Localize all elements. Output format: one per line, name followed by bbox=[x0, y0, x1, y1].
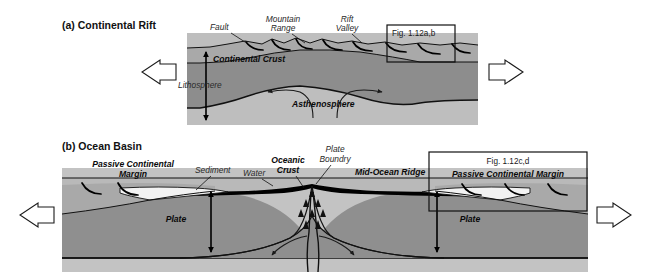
panel-a-continental-rift: (a) Continental Rift bbox=[62, 14, 523, 125]
extension-arrow-left-icon bbox=[142, 60, 176, 84]
panel-a-inset-caption: Fig. 1.12a,b bbox=[392, 29, 436, 38]
plate-boundary-label-line1: Plate bbox=[325, 144, 344, 154]
passive-margin-label-line2: Margin bbox=[119, 169, 147, 179]
plate-label-right: Plate bbox=[460, 214, 481, 224]
tectonic-diagram: (a) Continental Rift bbox=[0, 0, 650, 278]
panel-b-title: (b) Ocean Basin bbox=[62, 140, 142, 152]
oceanic-crust-label-line1: Oceanic bbox=[271, 155, 305, 165]
plate-label-left: Plate bbox=[166, 214, 187, 224]
panel-b-cross-section bbox=[62, 168, 588, 272]
continental-crust-label: Continental Crust bbox=[213, 54, 286, 64]
sediment-label: Sediment bbox=[195, 165, 231, 175]
mountain-range-label-line2: Range bbox=[271, 23, 296, 33]
passive-margin-label-line1: Passive Continental bbox=[92, 159, 174, 169]
spreading-arrow-right-icon bbox=[597, 203, 631, 227]
spreading-arrow-left-icon bbox=[20, 203, 54, 227]
panel-b-inset-subcaption: Passive Continental Margin bbox=[452, 169, 564, 179]
oceanic-crust-label-line2: Crust bbox=[277, 165, 301, 175]
water-label: Water bbox=[243, 168, 266, 178]
rift-valley-label-line2: Valley bbox=[336, 23, 359, 33]
lithosphere-label: Lithosphere bbox=[178, 80, 222, 90]
fault-label: Fault bbox=[210, 22, 229, 32]
panel-a-cross-section bbox=[187, 33, 478, 125]
extension-arrow-right-icon bbox=[489, 60, 523, 84]
plate-boundary-label-line2: Boundry bbox=[319, 154, 351, 164]
panel-a-title: (a) Continental Rift bbox=[62, 19, 156, 31]
panel-b-inset-caption: Fig. 1.12c,d bbox=[487, 157, 530, 166]
panel-b-ocean-basin: (b) Ocean Basin bbox=[20, 140, 631, 272]
mid-ocean-ridge-label: Mid-Ocean Ridge bbox=[355, 167, 425, 177]
figure-root: (a) Continental Rift bbox=[0, 0, 650, 278]
asthenosphere-label: Asthenosphere bbox=[291, 99, 355, 109]
